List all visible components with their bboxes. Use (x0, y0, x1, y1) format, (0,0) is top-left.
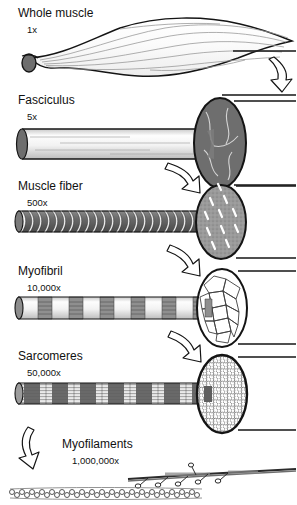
fasciculus-cross-section (194, 98, 246, 188)
level-myofilaments: Myofilaments 1,000,000x (10, 427, 297, 500)
level-label-myofilaments: Myofilaments (62, 437, 133, 451)
arrow-fasciculus-to-muscle-fiber (165, 163, 200, 193)
arrow-muscle-fiber-to-myofibril (167, 245, 200, 276)
level-whole-muscle: Whole muscle 1x (18, 6, 296, 95)
muscle-fiber-illustration (15, 184, 246, 259)
level-label-myofibril: Myofibril (18, 264, 63, 278)
level-magnification-myofilaments: 1,000,000x (72, 455, 119, 466)
level-magnification-fasciculus: 5x (27, 111, 37, 122)
fasciculus-proximal-face (17, 129, 28, 159)
myofibril-proximal-face (15, 297, 23, 319)
muscle-fiber-proximal-face (15, 211, 23, 232)
arrow-whole-muscle-to-fasciculus (269, 57, 292, 92)
level-fasciculus: Fasciculus 5x (17, 93, 297, 193)
level-magnification-sarcomeres: 50,000x (27, 367, 61, 378)
fasciculus-cylinder-body (22, 129, 214, 159)
level-label-sarcomeres: Sarcomeres (18, 349, 83, 363)
sarcomeres-junction-shade (204, 386, 212, 402)
level-magnification-whole-muscle: 1x (27, 24, 37, 35)
thin-filament (10, 488, 203, 500)
muscle-hierarchy-diagram: Whole muscle 1x Fasciculu (0, 0, 296, 505)
whole-muscle-cut-face (22, 54, 36, 72)
myofilaments-illustration (10, 463, 297, 500)
myofibril-junction-shade (205, 299, 212, 317)
fasciculus-illustration (17, 98, 247, 188)
thick-filament (128, 469, 296, 481)
muscle-fiber-bands (22, 211, 208, 232)
arrow-sarcomeres-to-myofilaments (19, 427, 39, 469)
level-label-whole-muscle: Whole muscle (18, 6, 94, 20)
myofibril-cross-section (197, 269, 247, 347)
level-label-muscle-fiber: Muscle fiber (18, 179, 83, 193)
sarcomeres-proximal-face (15, 383, 23, 404)
level-magnification-myofibril: 10,000x (27, 282, 61, 293)
level-muscle-fiber: Muscle fiber 500x (15, 179, 296, 276)
level-label-fasciculus: Fasciculus (18, 93, 75, 107)
whole-muscle-illustration (22, 18, 292, 76)
level-sarcomeres: Sarcomeres 50,000x (15, 349, 296, 433)
arrow-myofibril-to-sarcomeres (168, 331, 201, 362)
myofibril-illustration (15, 269, 247, 347)
level-magnification-muscle-fiber: 500x (27, 197, 48, 208)
level-myofibril: Myofibril 10,000x (15, 264, 296, 362)
muscle-fiber-cross-section (196, 185, 246, 259)
